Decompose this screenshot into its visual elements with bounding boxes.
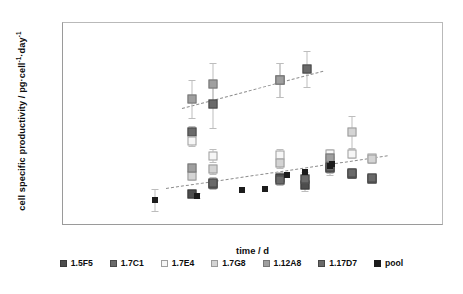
error-bar-cap bbox=[277, 97, 284, 98]
y-axis-tick-mark bbox=[62, 68, 63, 69]
error-bar-cap bbox=[277, 185, 284, 186]
data-point-1.12A8 bbox=[209, 80, 218, 89]
legend-item-1.7G8[interactable]: 1.7G8 bbox=[211, 258, 245, 268]
legend-swatch-icon bbox=[374, 260, 381, 267]
x-axis-tick-mark bbox=[175, 224, 176, 225]
data-point-1.7E4 bbox=[348, 149, 357, 158]
upper-trendline bbox=[182, 71, 323, 109]
legend-item-1.7E4[interactable]: 1.7E4 bbox=[161, 258, 194, 268]
x-axis-tick-mark bbox=[310, 224, 311, 225]
error-bar-cap bbox=[210, 149, 217, 150]
x-axis-tick-label: 13 bbox=[349, 224, 360, 225]
x-axis-tick-mark bbox=[399, 224, 400, 225]
x-axis-tick-label: 8 bbox=[240, 224, 245, 225]
x-axis-tick-mark bbox=[422, 224, 423, 225]
x-axis-tick-label: 4 bbox=[150, 224, 155, 225]
data-point-pool bbox=[262, 186, 268, 192]
x-axis-tick-label: 17 bbox=[439, 224, 443, 225]
data-point-pool bbox=[239, 187, 245, 193]
x-axis-tick-mark bbox=[197, 224, 198, 225]
y-axis-tick-mark bbox=[62, 136, 63, 137]
y-axis-title: cell specific productivity / pg·cell-1·d… bbox=[15, 16, 27, 226]
legend-label: 1.7C1 bbox=[121, 258, 144, 268]
legend-item-1.5F5[interactable]: 1.5F5 bbox=[60, 258, 93, 268]
error-bar-cap bbox=[210, 162, 217, 163]
error-bar-cap bbox=[210, 174, 217, 175]
y-axis-tick-mark bbox=[62, 203, 63, 204]
error-bar-cap bbox=[302, 191, 309, 192]
error-bar-cap bbox=[188, 146, 195, 147]
x-axis-title: time / d bbox=[62, 245, 443, 256]
y-axis-tick-label: 0 bbox=[62, 221, 63, 226]
legend-label: 1.5F5 bbox=[71, 258, 93, 268]
data-point-1.7G8 bbox=[209, 165, 218, 174]
x-axis-tick-mark bbox=[153, 224, 154, 225]
y-axis-tick-mark bbox=[62, 91, 63, 92]
error-bar-cap bbox=[210, 188, 217, 189]
x-axis-tick-label: 12 bbox=[327, 224, 338, 225]
x-axis-tick-label: 2 bbox=[105, 224, 110, 225]
error-bar-cap bbox=[188, 80, 195, 81]
error-bar-cap bbox=[210, 63, 217, 64]
error-bar-cap bbox=[151, 189, 158, 190]
legend-label: pool bbox=[385, 258, 403, 268]
x-axis-tick-label: 3 bbox=[128, 224, 133, 225]
error-bar-cap bbox=[349, 158, 356, 159]
error-bar-cap bbox=[188, 118, 195, 119]
x-axis-tick-mark bbox=[265, 224, 266, 225]
data-point-1.12A8 bbox=[187, 164, 196, 173]
x-axis-tick-mark bbox=[63, 224, 64, 225]
y-axis-tick-mark bbox=[62, 23, 63, 24]
data-point-1.12A8 bbox=[187, 95, 196, 104]
x-axis-tick-mark bbox=[108, 224, 109, 225]
error-bar-cap bbox=[151, 211, 158, 212]
error-bar-cap bbox=[369, 163, 376, 164]
legend-swatch-icon bbox=[60, 260, 67, 267]
legend-label: 1.17D7 bbox=[329, 258, 357, 268]
error-bar-cap bbox=[277, 168, 284, 169]
x-axis-tick-mark bbox=[220, 224, 221, 225]
legend-swatch-icon bbox=[211, 260, 218, 267]
x-axis-tick-label: 15 bbox=[394, 224, 405, 225]
legend-label: 1.12A8 bbox=[274, 258, 302, 268]
error-bar-cap bbox=[326, 175, 333, 176]
error-bar-cap bbox=[304, 51, 311, 52]
y-axis-tick-mark bbox=[62, 181, 63, 182]
legend-swatch-icon bbox=[318, 260, 325, 267]
chart-legend: 1.5F51.7C11.7E41.7G81.12A81.17D7pool bbox=[0, 258, 463, 268]
chart-figure: cell specific productivity / pg·cell-1·d… bbox=[0, 0, 463, 294]
data-point-1.7G8 bbox=[348, 127, 357, 136]
data-point-1.7G8 bbox=[276, 158, 285, 167]
legend-item-1.17D7[interactable]: 1.17D7 bbox=[318, 258, 357, 268]
data-point-1.7C1 bbox=[209, 100, 218, 109]
x-axis-tick-label: 1 bbox=[83, 224, 88, 225]
legend-item-1.7C1[interactable]: 1.7C1 bbox=[110, 258, 144, 268]
x-axis-tick-mark bbox=[287, 224, 288, 225]
x-axis-tick-mark bbox=[85, 224, 86, 225]
x-axis-tick-label: 0 bbox=[62, 224, 66, 225]
data-point-1.7G8 bbox=[368, 154, 377, 163]
data-point-pool bbox=[194, 193, 200, 199]
data-point-pool bbox=[152, 197, 158, 203]
x-axis-tick-label: 11 bbox=[304, 224, 314, 225]
y-axis-tick-mark bbox=[62, 46, 63, 47]
error-bar-cap bbox=[326, 173, 333, 174]
x-axis-tick-mark bbox=[377, 224, 378, 225]
data-point-1.7E4 bbox=[187, 137, 196, 146]
error-bar-cap bbox=[349, 116, 356, 117]
legend-swatch-icon bbox=[263, 260, 270, 267]
x-axis-tick-label: 14 bbox=[371, 224, 382, 225]
legend-item-1.12A8[interactable]: 1.12A8 bbox=[263, 258, 302, 268]
data-point-1.17D7 bbox=[368, 173, 377, 182]
x-axis-tick-label: 16 bbox=[416, 224, 427, 225]
plot-area: 0246810121416180123456789101112131415161… bbox=[62, 22, 443, 225]
x-axis-tick-mark bbox=[354, 224, 355, 225]
x-axis-tick-label: 7 bbox=[217, 224, 222, 225]
x-axis-tick-label: 9 bbox=[262, 224, 267, 225]
error-bar-cap bbox=[277, 63, 284, 64]
data-point-1.17D7 bbox=[301, 174, 310, 183]
legend-label: 1.7E4 bbox=[172, 258, 194, 268]
data-point-pool bbox=[329, 161, 335, 167]
y-axis-tick-mark bbox=[62, 113, 63, 114]
legend-item-pool[interactable]: pool bbox=[374, 258, 403, 268]
